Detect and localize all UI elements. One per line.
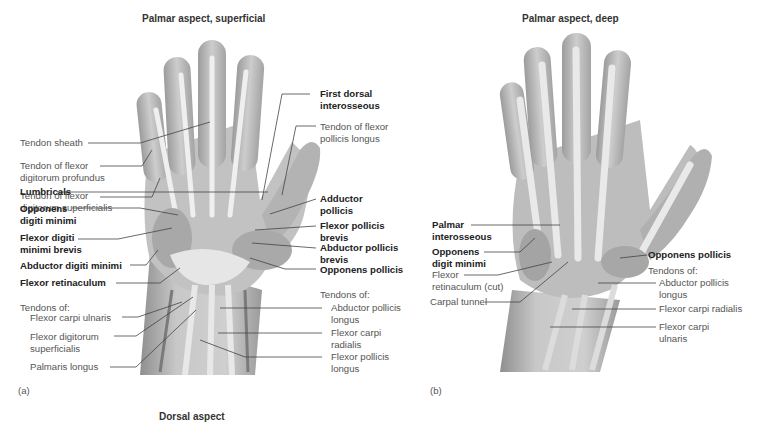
label-tendon-fdp: Tendon of flexor digitorum profundus xyxy=(20,160,105,183)
label-abductor-digiti-minimi: Abductor digiti minimi xyxy=(20,260,122,272)
label-flexor-digitorum-superficialis: Flexor digitorum superficialis xyxy=(30,331,99,354)
label-flexor-retinaculum: Flexor retinaculum xyxy=(20,277,106,289)
label-tendons-of-b: Tendons of: xyxy=(648,265,698,277)
label-lumbricals: Lumbricals xyxy=(20,186,71,198)
label-flexor-carpi-ulnaris-b: Flexor carpi ulnaris xyxy=(659,321,709,344)
label-flexor-carpi-radialis-a: Flexor carpi radialis xyxy=(331,327,381,350)
label-opponens-pollicis-a: Opponens pollicis xyxy=(320,264,403,276)
label-abductor-pollicis-longus-b: Abductor pollicis longus xyxy=(659,277,729,300)
label-flexor-digiti-minimi-brevis: Flexor digiti minimi brevis xyxy=(20,232,82,255)
label-flexor-carpi-radialis-b: Flexor carpi radialis xyxy=(659,303,742,315)
label-carpal-tunnel: Carpal tunnel xyxy=(430,296,487,308)
label-palmar-interosseous: Palmar interosseous xyxy=(432,219,492,242)
panel-a-tag: (a) xyxy=(18,385,30,396)
label-opponens-digiti-minimi: Opponens digiti minimi xyxy=(20,203,77,226)
label-first-dorsal-interosseous: First dorsal interosseous xyxy=(320,88,380,111)
label-flexor-carpi-ulnaris: Flexor carpi ulnaris xyxy=(30,312,111,324)
label-flexor-retinaculum-cut: Flexor retinaculum (cut) xyxy=(432,269,503,292)
label-flexor-pollicis-brevis: Flexor pollicis brevis xyxy=(320,220,385,243)
label-opponens-pollicis-b: Opponens pollicis xyxy=(648,249,731,261)
label-abductor-pollicis-brevis: Abductor pollicis brevis xyxy=(320,242,398,265)
superficial-hand-illustration xyxy=(135,40,320,375)
label-tendon-fpl: Tendon of flexor pollicis longus xyxy=(320,121,388,144)
label-abductor-pollicis-longus-a: Abductor pollicis longus xyxy=(331,302,401,325)
label-tendons-of-a-right: Tendons of: xyxy=(320,289,370,301)
panel-b-tag: (b) xyxy=(430,385,442,396)
label-adductor-pollicis: Adductor pollicis xyxy=(320,193,363,216)
label-opponens-digit-minimi: Opponens digit minimi xyxy=(432,246,486,269)
label-tendon-sheath: Tendon sheath xyxy=(20,137,83,149)
label-palmaris-longus: Palmaris longus xyxy=(30,361,98,373)
label-flexor-pollicis-longus-a: Flexor pollicis longus xyxy=(331,351,389,374)
